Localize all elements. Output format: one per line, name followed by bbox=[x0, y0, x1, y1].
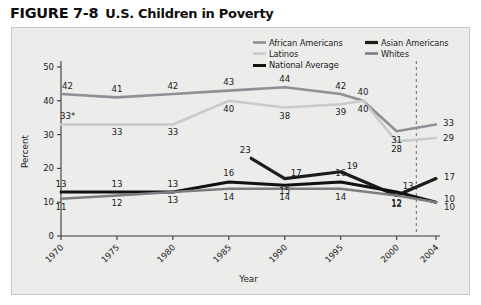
x-tick-label: 1985 bbox=[211, 242, 233, 264]
chart-plot-area: 01020304050Percent1970197519801985199019… bbox=[12, 28, 471, 296]
data-label: 11 bbox=[56, 202, 67, 212]
data-label: 19 bbox=[347, 161, 358, 171]
data-label: 33* bbox=[60, 111, 76, 121]
data-label: 13 bbox=[111, 179, 122, 189]
data-label: 13 bbox=[56, 179, 67, 189]
y-tick-label: 30 bbox=[43, 130, 54, 140]
data-label: 10 bbox=[444, 202, 455, 212]
data-label: 41 bbox=[111, 84, 122, 94]
x-tick-label: 2004 bbox=[418, 242, 440, 264]
data-label: 29 bbox=[443, 133, 454, 143]
data-label: 44 bbox=[279, 74, 290, 84]
data-label: 14 bbox=[335, 192, 346, 202]
x-tick-label: 1990 bbox=[267, 242, 289, 264]
data-label: 40 bbox=[223, 104, 234, 114]
data-label: 23 bbox=[240, 145, 251, 155]
y-tick-label: 50 bbox=[43, 62, 54, 72]
data-label: 40 bbox=[358, 104, 369, 114]
data-label: 17 bbox=[291, 168, 302, 178]
data-label: 16 bbox=[223, 168, 234, 178]
page-title: U.S. Children in Poverty bbox=[105, 6, 273, 21]
data-label: 42 bbox=[62, 81, 73, 91]
x-axis-title: Year bbox=[238, 274, 258, 284]
data-label: 39 bbox=[335, 107, 346, 117]
data-label: 42 bbox=[335, 81, 346, 91]
data-label: 17 bbox=[444, 172, 455, 182]
figure-title-bar: FIGURE 7-8 U.S. Children in Poverty bbox=[10, 2, 470, 24]
chart-panel: African Americans Asian Americans Latino… bbox=[11, 27, 470, 295]
x-tick-label: 1980 bbox=[155, 242, 177, 264]
y-tick-label: 10 bbox=[43, 197, 54, 207]
data-label: 33 bbox=[111, 127, 122, 137]
data-label: 33 bbox=[443, 118, 454, 128]
y-tick-label: 40 bbox=[43, 96, 54, 106]
figure-number: FIGURE 7-8 bbox=[10, 5, 98, 21]
y-tick-label: 0 bbox=[49, 231, 54, 241]
data-label: 12 bbox=[111, 198, 122, 208]
data-label: 13 bbox=[167, 195, 178, 205]
data-label: 13 bbox=[403, 181, 414, 191]
data-label: 12 bbox=[391, 198, 402, 208]
x-tick-label: 1970 bbox=[43, 242, 65, 264]
data-label: 40 bbox=[358, 87, 369, 97]
x-tick-label: 2000 bbox=[379, 242, 401, 264]
figure-container: FIGURE 7-8 U.S. Children in Poverty Afri… bbox=[0, 0, 481, 305]
data-label: 43 bbox=[223, 77, 234, 87]
data-label: 13 bbox=[167, 179, 178, 189]
data-label: 33 bbox=[167, 127, 178, 137]
x-tick-label: 1975 bbox=[99, 242, 121, 264]
x-tick-label: 1995 bbox=[323, 242, 345, 264]
data-label: 14 bbox=[279, 192, 290, 202]
data-label: 14 bbox=[223, 192, 234, 202]
data-label: 38 bbox=[279, 111, 290, 121]
y-tick-label: 20 bbox=[43, 163, 54, 173]
y-axis-title: Percent bbox=[20, 134, 30, 168]
data-label: 16 bbox=[335, 168, 346, 178]
line-chart: 01020304050Percent1970197519801985199019… bbox=[12, 28, 471, 296]
data-label: 28 bbox=[391, 144, 402, 154]
data-label: 42 bbox=[167, 81, 178, 91]
